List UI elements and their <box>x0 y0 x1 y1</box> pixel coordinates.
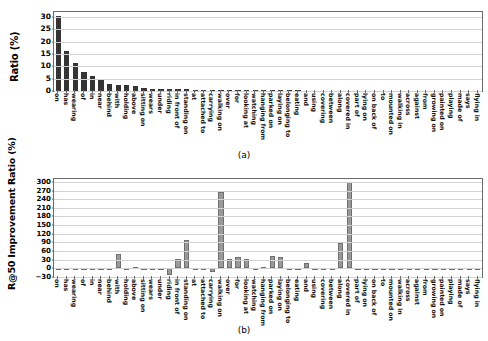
x-tick-label: near <box>97 93 103 109</box>
y-tick-mark <box>52 268 55 269</box>
x-tick-label: under <box>157 93 163 114</box>
x-tick-label: wearing <box>71 93 77 121</box>
y-tick-mark <box>52 277 55 278</box>
x-tick-label: eating <box>294 93 300 115</box>
y-tick-label: 300 <box>36 178 51 185</box>
x-tick-label: along <box>337 279 343 298</box>
y-tick-mark <box>52 78 55 79</box>
y-tick-label: 180 <box>36 213 51 220</box>
x-tick-label: mounted on <box>388 93 394 135</box>
y-tick-label: −30 <box>35 274 51 281</box>
x-tick-label: standing on <box>183 279 189 320</box>
gridline <box>54 79 482 80</box>
x-tick-label: and <box>302 93 308 106</box>
x-tick-label: holding <box>123 279 129 305</box>
x-tick-label: using <box>311 279 317 298</box>
panel-b-y-axis-title: R@50 Improvement Ratio (%) <box>6 137 17 290</box>
y-tick-label: 60 <box>41 248 51 255</box>
x-tick-label: on <box>54 93 60 102</box>
y-tick-label: 120 <box>36 230 51 237</box>
x-tick-label: between <box>328 279 334 309</box>
x-tick-label: sitting on <box>140 93 146 127</box>
x-tick-label: using <box>311 93 317 112</box>
x-tick-label: sitting on <box>140 279 146 313</box>
y-tick-label: 15 <box>41 50 51 58</box>
gridline <box>54 191 482 192</box>
x-tick-label: laying on <box>277 279 283 311</box>
y-tick-label: 0 <box>46 265 51 272</box>
x-tick-label: eating <box>294 279 300 301</box>
x-tick-label: looking at <box>242 93 248 128</box>
y-tick-mark <box>52 207 55 208</box>
x-tick-label: playing <box>448 279 454 305</box>
x-tick-label: covered in <box>345 93 351 130</box>
y-tick-mark <box>52 199 55 200</box>
x-tick-label: between <box>328 93 334 123</box>
y-tick-mark <box>52 216 55 217</box>
gridline <box>54 182 482 183</box>
y-tick-mark <box>52 251 55 252</box>
x-tick-label: in <box>88 93 94 100</box>
x-tick-label: holding <box>123 93 129 119</box>
x-tick-label: flying in <box>474 279 480 307</box>
x-tick-label: made of <box>456 279 462 307</box>
y-tick-mark <box>52 66 55 67</box>
x-tick-label: wears <box>148 93 154 114</box>
gridline <box>54 54 482 55</box>
x-tick-label: walking on <box>217 279 223 317</box>
y-tick-label: 30 <box>41 13 51 21</box>
x-tick-label: wearing <box>71 279 77 307</box>
gridline <box>54 242 482 243</box>
chart-panel-b: R@50 Improvement Ratio (%) −300306090120… <box>0 165 488 341</box>
y-tick-label: 240 <box>36 196 51 203</box>
x-tick-label: from <box>422 279 428 295</box>
x-tick-label: painted on <box>439 279 445 317</box>
panel-b-caption: (b) <box>0 325 488 335</box>
x-tick-label: walking in <box>397 279 403 315</box>
x-tick-label: walking in <box>397 93 403 129</box>
y-tick-mark <box>52 259 55 260</box>
y-tick-label: 5 <box>46 75 51 83</box>
gridline <box>54 225 482 226</box>
x-tick-label: belonging to <box>285 93 291 137</box>
x-tick-label: behind <box>106 93 112 117</box>
y-tick-label: 20 <box>41 38 51 46</box>
x-tick-label: lying on <box>362 279 368 307</box>
y-tick-mark <box>52 29 55 30</box>
y-tick-label: 25 <box>41 26 51 34</box>
x-tick-label: flying in <box>474 93 480 121</box>
bar <box>116 254 121 268</box>
y-tick-mark <box>52 91 55 92</box>
x-tick-label: against <box>414 93 420 119</box>
x-tick-label: carrying <box>208 279 214 308</box>
x-tick-label: across <box>405 279 411 302</box>
x-tick-label: part of <box>354 93 360 117</box>
x-tick-label: covering <box>320 93 326 123</box>
gridline <box>54 29 482 30</box>
x-tick-label: painted on <box>439 93 445 131</box>
x-tick-label: says <box>465 279 471 294</box>
y-tick-mark <box>52 181 55 182</box>
x-tick-label: riding <box>165 279 171 300</box>
y-tick-mark <box>52 225 55 226</box>
bar <box>184 240 189 269</box>
y-tick-mark <box>52 190 55 191</box>
y-tick-label: 270 <box>36 187 51 194</box>
x-tick-label: attached to <box>200 93 206 133</box>
x-tick-label: and <box>302 279 308 292</box>
bar <box>338 243 343 268</box>
gridline <box>54 268 482 269</box>
y-tick-mark <box>52 233 55 234</box>
x-tick-label: along <box>337 93 343 112</box>
gridline <box>54 260 482 261</box>
x-tick-label: to <box>379 93 385 100</box>
x-tick-label: has <box>63 93 69 105</box>
x-tick-label: from <box>422 93 428 109</box>
x-tick-label: covered in <box>345 279 351 316</box>
y-tick-mark <box>52 41 55 42</box>
x-tick-label: parked on <box>268 279 274 314</box>
x-tick-label: lying on <box>362 93 368 121</box>
panel-a-plot-area: 051015202530 <box>53 11 483 92</box>
x-tick-label: has <box>63 279 69 291</box>
gridline <box>54 66 482 67</box>
